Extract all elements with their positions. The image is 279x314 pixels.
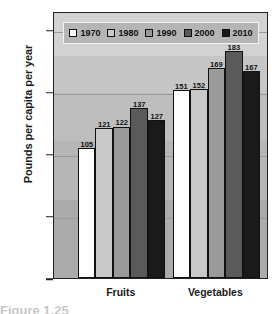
bar-value-label: 122 bbox=[115, 118, 128, 127]
bar bbox=[173, 90, 191, 278]
bar bbox=[95, 128, 113, 278]
bar bbox=[113, 127, 131, 279]
bar-value-label: 167 bbox=[245, 63, 258, 72]
bar bbox=[148, 120, 166, 278]
legend-items: 19701980199020002010 bbox=[69, 28, 252, 38]
bar bbox=[130, 108, 148, 278]
plot-inner: 105121122137127151152169183167 bbox=[54, 13, 267, 278]
legend-swatch-icon bbox=[184, 29, 192, 37]
bar bbox=[243, 71, 261, 278]
legend-swatch-icon bbox=[69, 29, 77, 37]
bar-value-label: 152 bbox=[193, 81, 206, 90]
bar bbox=[208, 68, 226, 278]
legend-label: 1990 bbox=[156, 28, 176, 38]
y-tick-mark bbox=[46, 216, 53, 218]
bar-value-label: 127 bbox=[150, 112, 163, 121]
legend-label: 2000 bbox=[195, 28, 215, 38]
legend-label: 2010 bbox=[233, 28, 253, 38]
legend-item: 1980 bbox=[107, 28, 138, 38]
legend-label: 1980 bbox=[118, 28, 138, 38]
bar-value-label: 137 bbox=[133, 100, 146, 109]
figure-caption: Figure 1.25 bbox=[0, 303, 279, 314]
plot-area: 105121122137127151152169183167 bbox=[53, 12, 268, 279]
bar-value-label: 151 bbox=[175, 82, 188, 91]
bar-value-label: 183 bbox=[228, 43, 241, 52]
legend-item: 1990 bbox=[145, 28, 176, 38]
y-tick-mark bbox=[46, 154, 53, 156]
bar bbox=[225, 51, 243, 278]
legend-item: 1970 bbox=[69, 28, 100, 38]
legend: 19701980199020002010 bbox=[63, 22, 259, 44]
bar-value-label: 121 bbox=[98, 120, 111, 129]
y-axis-title: Pounds per capita per year bbox=[22, 14, 34, 214]
x-category-label: Fruits bbox=[106, 286, 135, 298]
y-tick-mark bbox=[46, 92, 53, 94]
legend-label: 1970 bbox=[80, 28, 100, 38]
bar-chart: Pounds per capita per year 1051211221371… bbox=[0, 0, 279, 314]
bar-value-label: 105 bbox=[80, 140, 93, 149]
legend-item: 2000 bbox=[184, 28, 215, 38]
x-category-label: Vegetables bbox=[188, 286, 243, 298]
y-tick-mark bbox=[46, 30, 53, 32]
legend-swatch-icon bbox=[107, 29, 115, 37]
legend-swatch-icon bbox=[145, 29, 153, 37]
legend-swatch-icon bbox=[222, 29, 230, 37]
legend-item: 2010 bbox=[222, 28, 253, 38]
bar bbox=[190, 89, 208, 278]
bar-value-label: 169 bbox=[210, 60, 223, 69]
bars-layer: 105121122137127151152169183167 bbox=[54, 13, 267, 278]
y-tick-mark bbox=[46, 278, 53, 280]
bar bbox=[78, 148, 96, 278]
